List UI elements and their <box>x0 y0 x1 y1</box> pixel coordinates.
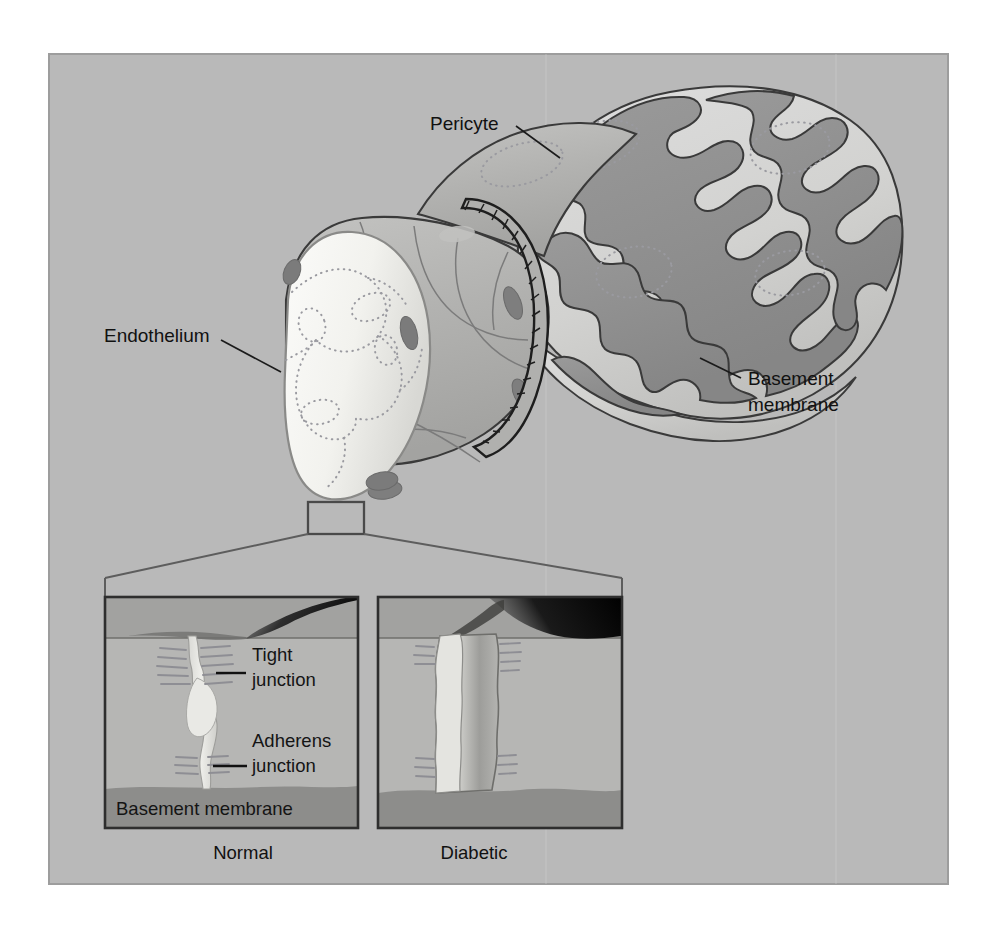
label-basement-membrane-line1: Basement <box>748 368 834 389</box>
label-basement-membrane-line2: membrane <box>748 394 839 415</box>
inset-diabetic <box>378 593 622 828</box>
inset-diabetic-basement-band <box>378 789 622 828</box>
caption-normal: Normal <box>213 842 273 863</box>
label-endothelium: Endothelium <box>104 325 210 346</box>
label-tight-junction-line1: Tight <box>252 644 292 665</box>
caption-diabetic: Diabetic <box>441 842 508 863</box>
label-adherens-junction-line1: Adherens <box>252 730 331 751</box>
capillary-diagram: Pericyte Endothelium Basement membrane <box>0 0 995 932</box>
label-tight-junction-line2: junction <box>251 669 316 690</box>
label-pericyte: Pericyte <box>430 113 499 134</box>
label-adherens-junction-line2: junction <box>251 755 316 776</box>
label-inset-basement-membrane: Basement membrane <box>116 798 293 819</box>
inset-normal: Tight junction Adherens junction Basemen… <box>105 596 358 828</box>
figure-root: Pericyte Endothelium Basement membrane <box>0 0 995 932</box>
